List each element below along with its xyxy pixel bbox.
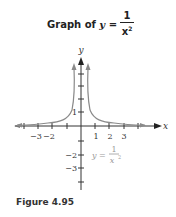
y-axis-label: y xyxy=(77,45,84,55)
svg-text:2: 2 xyxy=(107,132,112,141)
figure-caption: Figure 4.95 xyxy=(16,197,74,207)
x-axis-label: x xyxy=(163,121,168,131)
svg-text:1: 1 xyxy=(72,108,77,117)
svg-text:y =: y = xyxy=(91,151,106,160)
y-axis xyxy=(78,57,84,190)
curve-annotation: y = 1 x 2 xyxy=(91,145,121,165)
svg-text:2: 2 xyxy=(118,154,121,160)
svg-text:−2: −2 xyxy=(43,132,55,141)
svg-text:x: x xyxy=(110,156,115,165)
x-tick-labels: −3 −2 1 2 3 xyxy=(30,132,126,141)
svg-text:3: 3 xyxy=(121,132,126,141)
plot-area: y x −3 −2 1 2 3 1 −2 −3 y = 1 x 2 xyxy=(0,0,176,217)
svg-text:−2: −2 xyxy=(65,151,77,160)
svg-text:1: 1 xyxy=(93,132,98,141)
svg-text:1: 1 xyxy=(111,145,116,154)
svg-text:−3: −3 xyxy=(30,132,42,141)
svg-text:−3: −3 xyxy=(65,164,77,173)
